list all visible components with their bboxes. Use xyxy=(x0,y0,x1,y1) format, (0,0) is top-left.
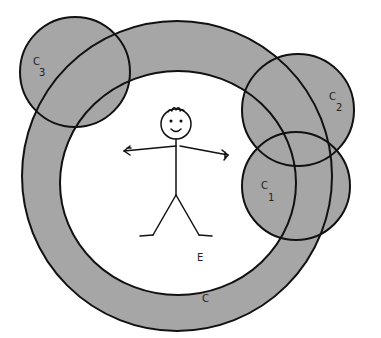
label-c1-letter: C xyxy=(261,180,268,191)
label-ring-c: C xyxy=(202,293,209,304)
label-c3-letter: C xyxy=(33,56,40,67)
label-environment: E xyxy=(197,252,203,263)
label-c2-sub: 2 xyxy=(336,102,342,113)
label-c1-sub: 1 xyxy=(268,192,274,203)
venn-ring-diagram: C 3 C 2 C 1 E C xyxy=(0,0,381,338)
label-c2-letter: C xyxy=(329,91,336,102)
label-c3-sub: 3 xyxy=(39,67,45,78)
